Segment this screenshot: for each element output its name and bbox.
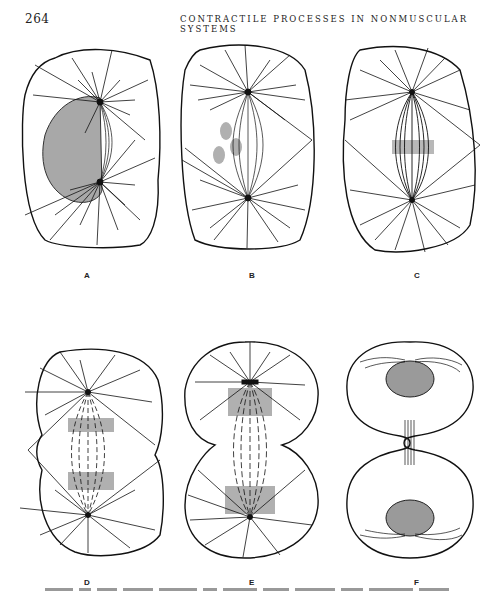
panel-label-d: D	[84, 578, 90, 587]
panel-label-a: A	[84, 271, 90, 280]
panel-label-e: E	[249, 578, 254, 587]
panel-e	[185, 342, 318, 558]
panel-label-b: B	[249, 271, 255, 280]
panel-b	[181, 45, 314, 249]
spindle-d	[72, 392, 105, 515]
aster-c-top	[345, 48, 480, 145]
panel-c	[343, 47, 480, 252]
cell-outline-e	[185, 342, 318, 558]
spindle-c	[396, 92, 429, 200]
panel-f	[347, 342, 473, 558]
panel-d	[20, 349, 163, 555]
panel-label-c: C	[414, 271, 420, 280]
panel-label-f: F	[414, 578, 419, 587]
panel-a	[22, 50, 160, 248]
figure-caption-truncated	[45, 588, 455, 594]
mitosis-figure	[0, 0, 492, 594]
